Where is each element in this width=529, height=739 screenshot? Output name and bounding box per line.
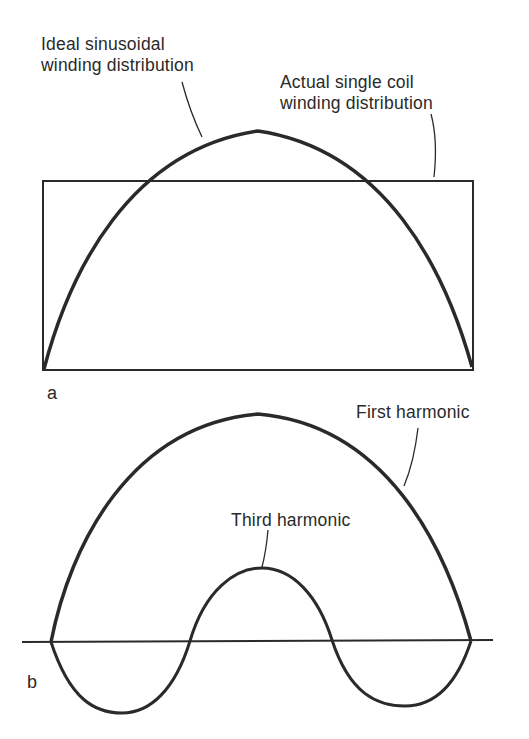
third-harmonic-label: Third harmonic bbox=[231, 510, 351, 531]
diagram-canvas bbox=[0, 0, 529, 739]
ideal-distribution-label: Ideal sinusoidal winding distribution bbox=[41, 34, 194, 76]
ideal-sinusoid-curve bbox=[44, 131, 472, 369]
ideal-label-line1: Ideal sinusoidal bbox=[41, 34, 194, 55]
ideal-label-leader bbox=[182, 82, 202, 137]
actual-label-line1: Actual single coil bbox=[280, 72, 433, 93]
panel-b-label: b bbox=[27, 672, 37, 693]
first-harmonic-leader bbox=[404, 428, 418, 486]
panel-a-label: a bbox=[47, 383, 57, 404]
third-harmonic-leader bbox=[262, 530, 268, 567]
ideal-label-line2: winding distribution bbox=[41, 55, 194, 76]
actual-distribution-label: Actual single coil winding distribution bbox=[280, 72, 433, 114]
actual-label-leader bbox=[431, 114, 435, 177]
baseline-axis bbox=[22, 640, 493, 642]
actual-label-line2: winding distribution bbox=[280, 93, 433, 114]
single-coil-rectangle bbox=[43, 181, 473, 370]
first-harmonic-label: First harmonic bbox=[356, 402, 470, 423]
